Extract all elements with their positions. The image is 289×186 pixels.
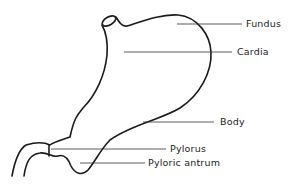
body-label: Body: [220, 117, 245, 127]
fundus-label: Fundus: [246, 19, 281, 29]
stomach-inner-outline: [12, 25, 107, 176]
pylorus-label: Pylorus: [170, 144, 206, 154]
cardia-label: Cardia: [237, 47, 269, 57]
pyloric-antrum-label: Pyloric antrum: [148, 158, 220, 168]
